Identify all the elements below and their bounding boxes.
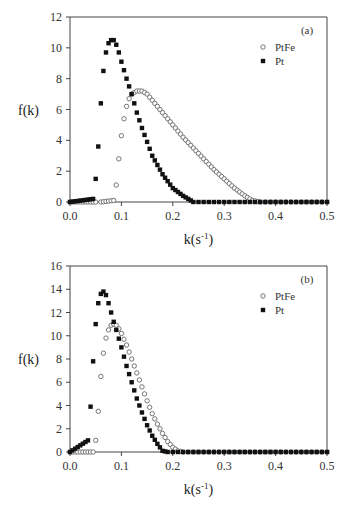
data-point: [191, 200, 195, 204]
data-point: [268, 450, 272, 454]
data-point: [160, 431, 164, 435]
data-point: [279, 200, 283, 204]
data-point: [299, 450, 303, 454]
y-tick-label: 2: [56, 422, 62, 436]
data-point: [279, 450, 283, 454]
data-point: [165, 450, 169, 454]
data-point: [147, 147, 151, 151]
y-tick-label: 10: [50, 41, 62, 55]
data-point: [132, 388, 136, 392]
y-axis-label: f(k): [18, 352, 39, 368]
data-point: [86, 438, 90, 442]
data-point: [222, 450, 226, 454]
data-point: [119, 331, 123, 335]
data-point: [122, 68, 126, 72]
data-point: [137, 403, 141, 407]
data-point: [114, 43, 118, 47]
data-point: [217, 450, 221, 454]
legend-marker-circle-icon: [261, 294, 265, 298]
data-point: [243, 450, 247, 454]
y-tick-label: 0: [56, 445, 62, 459]
data-point: [94, 177, 98, 181]
data-point: [158, 427, 162, 431]
data-point: [117, 157, 121, 161]
data-point: [325, 200, 329, 204]
data-point: [140, 410, 144, 414]
data-point: [232, 200, 236, 204]
data-point: [119, 60, 123, 64]
data-point: [142, 392, 146, 396]
data-point: [124, 343, 128, 347]
data-point: [99, 374, 103, 378]
y-axis-label: f(k): [18, 103, 39, 119]
data-point: [124, 76, 128, 80]
data-point: [253, 450, 257, 454]
data-point: [325, 450, 329, 454]
data-point: [263, 200, 267, 204]
data-point: [181, 450, 185, 454]
data-point: [294, 200, 298, 204]
x-tick-label: 0.3: [217, 459, 232, 473]
x-tick-label: 0.0: [63, 209, 78, 223]
data-point: [137, 118, 141, 122]
data-point: [150, 411, 154, 415]
data-point: [132, 364, 136, 368]
data-point: [309, 200, 313, 204]
data-point: [299, 200, 303, 204]
data-point: [135, 110, 139, 114]
data-point: [96, 301, 100, 305]
y-tick-label: 16: [50, 259, 62, 273]
data-point: [127, 84, 131, 88]
data-point: [163, 435, 167, 439]
x-tick-label: 0.4: [268, 209, 283, 223]
y-tick-label: 8: [56, 352, 62, 366]
data-point: [124, 364, 128, 368]
data-point: [268, 200, 272, 204]
data-point: [101, 351, 105, 355]
data-point: [248, 200, 252, 204]
data-point: [196, 200, 200, 204]
data-point: [237, 450, 241, 454]
data-point: [127, 372, 131, 376]
y-tick-label: 0: [56, 195, 62, 209]
data-point: [111, 38, 115, 42]
x-tick-label: 0.5: [320, 459, 335, 473]
data-point: [140, 385, 144, 389]
data-point: [155, 163, 159, 167]
data-point: [109, 310, 113, 314]
data-point: [212, 200, 216, 204]
data-point: [129, 357, 133, 361]
data-point: [294, 450, 298, 454]
x-tick-label: 0.0: [63, 459, 78, 473]
series-ptfe: [68, 322, 329, 454]
data-point: [119, 345, 123, 349]
y-tick-label: 6: [56, 375, 62, 389]
legend-label: Pt: [275, 55, 284, 67]
data-point: [289, 450, 293, 454]
legend-label: Pt: [275, 304, 284, 316]
data-point: [91, 450, 95, 454]
data-point: [147, 405, 151, 409]
data-point: [135, 396, 139, 400]
series-pt: [68, 38, 329, 204]
panel-label: (b): [301, 273, 314, 286]
x-tick-label: 0.1: [114, 209, 129, 223]
data-point: [119, 134, 123, 138]
data-point: [315, 450, 319, 454]
data-point: [96, 409, 100, 413]
data-point: [320, 450, 324, 454]
x-tick-label: 0.4: [268, 459, 283, 473]
data-point: [315, 200, 319, 204]
chart-panel-a: 0246810120.00.10.20.30.40.5f(k)k(s-1)(a)…: [0, 0, 352, 255]
data-point: [186, 450, 190, 454]
data-point: [137, 378, 141, 382]
data-point: [111, 320, 115, 324]
data-point: [101, 69, 105, 73]
data-point: [284, 450, 288, 454]
y-tick-label: 6: [56, 103, 62, 117]
panel-label: (a): [301, 24, 314, 37]
y-tick-label: 2: [56, 164, 62, 178]
data-point: [96, 144, 100, 148]
chart-panel-b: 02468101214160.00.10.20.30.40.5f(k)k(s-1…: [0, 255, 352, 507]
data-point: [155, 422, 159, 426]
